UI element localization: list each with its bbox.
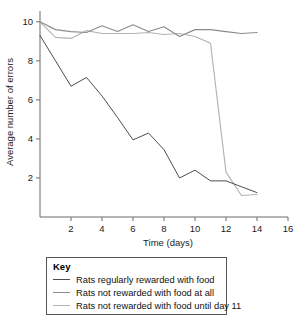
x-tick-label: 10 [190, 223, 201, 234]
x-tick-label: 12 [221, 223, 232, 234]
line-chart-svg: 246810246810121416 Average number of err… [0, 0, 304, 250]
y-tick-label: 4 [28, 133, 33, 144]
x-tick-label: 4 [99, 223, 104, 234]
x-tick-label: 14 [252, 223, 263, 234]
legend-title: Key [53, 261, 221, 272]
legend-line-swatch [53, 279, 70, 280]
y-tick-label: 6 [28, 94, 33, 105]
legend-item-label: Rats not rewarded with food until day 11 [76, 300, 241, 312]
legend-item-2: Rats not rewarded with food until day 11 [53, 299, 221, 312]
y-axis-title: Average number of errors [4, 58, 15, 166]
x-tick-label: 2 [68, 223, 73, 234]
x-tick-label: 6 [130, 223, 135, 234]
legend-key-box: Key Rats regularly rewarded with food Ra… [46, 257, 227, 315]
y-tick-label: 10 [22, 16, 33, 27]
x-tick-label: 8 [161, 223, 166, 234]
legend-item-0: Rats regularly rewarded with food [53, 273, 221, 286]
legend-item-1: Rats not rewarded with food at all [53, 286, 221, 299]
series-line [40, 22, 257, 37]
y-tick-label: 8 [28, 55, 33, 66]
x-axis-title: Time (days) [143, 237, 193, 248]
legend-item-label: Rats regularly rewarded with food [76, 274, 215, 286]
chart-figure: 246810246810121416 Average number of err… [0, 0, 304, 326]
series-line [40, 22, 257, 196]
tick-labels: 246810246810121416 [22, 16, 293, 234]
legend-item-label: Rats not rewarded with food at all [76, 287, 214, 299]
data-series [40, 22, 257, 196]
y-tick-label: 2 [28, 172, 33, 183]
legend-line-swatch [53, 292, 70, 293]
x-tick-label: 16 [283, 223, 294, 234]
series-line [40, 35, 257, 192]
legend-line-swatch [53, 305, 70, 306]
plot-area: 246810246810121416 Average number of err… [0, 0, 304, 250]
